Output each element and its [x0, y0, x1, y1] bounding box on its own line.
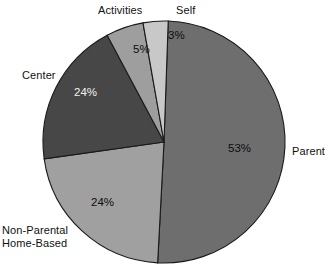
slice-value-self: 3%	[168, 29, 185, 42]
slice-value-non-parental-home-based: 24%	[91, 196, 114, 209]
pie-chart-figure: 3% 5% 24% 53% 24% Activities Self Center…	[0, 0, 335, 272]
slice-label-parent: Parent	[292, 145, 325, 158]
slice-label-activities: Activities	[98, 4, 142, 17]
slice-value-parent: 53%	[228, 142, 251, 155]
pie-slice-parent	[158, 21, 285, 263]
slice-value-center: 24%	[74, 86, 97, 99]
slice-label-non-parental-line-2: Home-Based	[2, 237, 67, 249]
slice-label-non-parental-home-based: Non-ParentalHome-Based	[2, 224, 68, 250]
slice-label-non-parental-line-1: Non-Parental	[2, 224, 68, 236]
slice-label-center: Center	[22, 69, 56, 82]
slice-label-self: Self	[176, 4, 195, 17]
slice-value-activities: 5%	[133, 43, 150, 56]
